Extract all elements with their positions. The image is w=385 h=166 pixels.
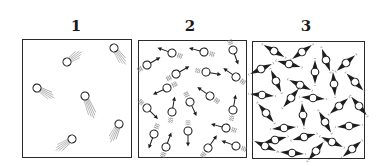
moving-particle bbox=[80, 91, 98, 120]
vibrating-particle bbox=[298, 101, 308, 130]
particle-with-arrow bbox=[159, 131, 175, 158]
particle-with-arrow bbox=[166, 96, 178, 123]
particle-with-arrow bbox=[156, 44, 183, 60]
vibrating-particle bbox=[254, 100, 278, 126]
moving-particle bbox=[61, 48, 84, 67]
particle-with-arrow bbox=[226, 39, 242, 66]
vibrating-particle bbox=[274, 57, 303, 72]
particle-with-arrow bbox=[227, 94, 239, 121]
particle-with-arrow bbox=[220, 137, 247, 153]
vibrating-particle bbox=[299, 93, 328, 103]
particle-with-arrow bbox=[188, 44, 215, 58]
particle-with-arrow bbox=[195, 84, 221, 106]
moving-particle bbox=[53, 133, 77, 153]
vibrating-particle bbox=[248, 90, 277, 100]
moving-particle bbox=[108, 42, 128, 66]
vibrating-particle bbox=[318, 133, 347, 152]
particle-with-arrow bbox=[137, 98, 161, 122]
particle-with-arrow bbox=[151, 80, 178, 98]
vibrating-particle bbox=[329, 70, 339, 99]
vibrating-particle bbox=[333, 51, 359, 75]
particle-with-arrow bbox=[136, 54, 163, 74]
vibrating-particle bbox=[326, 94, 352, 118]
vibrating-particle bbox=[304, 138, 328, 164]
moving-particle bbox=[107, 119, 124, 144]
vibrating-particle bbox=[286, 76, 315, 95]
vibrating-particle bbox=[339, 137, 365, 161]
vibrating-particle bbox=[288, 41, 315, 63]
vibrating-particle bbox=[260, 41, 288, 62]
vibrating-particle bbox=[342, 69, 367, 94]
particle-with-arrow bbox=[165, 63, 192, 83]
particle-with-arrow bbox=[221, 65, 247, 87]
vibrating-particle bbox=[278, 148, 307, 158]
particle-with-arrow bbox=[184, 120, 192, 146]
particles-layer bbox=[0, 0, 385, 166]
vibrating-particle bbox=[247, 60, 276, 79]
vibrating-particle bbox=[270, 123, 299, 133]
vibrating-particle bbox=[289, 130, 318, 145]
particle-with-arrow bbox=[199, 133, 221, 159]
moving-particle bbox=[32, 83, 57, 102]
vibrating-particle bbox=[347, 93, 371, 119]
particle-with-arrow bbox=[210, 120, 237, 134]
vibrating-particle bbox=[318, 46, 335, 75]
vibrating-particle bbox=[267, 67, 286, 96]
particle-with-arrow bbox=[182, 91, 200, 118]
vibrating-particle bbox=[335, 121, 364, 131]
vibrating-particle bbox=[311, 58, 319, 86]
particle-with-arrow bbox=[145, 123, 161, 150]
particle-with-arrow bbox=[195, 66, 222, 78]
